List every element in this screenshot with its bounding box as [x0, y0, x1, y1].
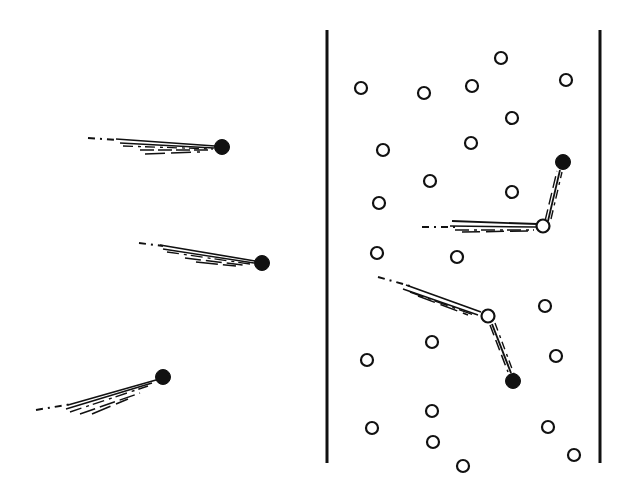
scatterer-open-circle [537, 220, 550, 233]
trajectory-endpoint-filled-dot [506, 374, 521, 389]
scatterer-open-circle [465, 137, 477, 149]
scatterer-open-circle [371, 247, 383, 259]
scatterer-open-circle [568, 449, 580, 461]
scatterer-open-circle [451, 251, 463, 263]
scatterer-open-circle [366, 422, 378, 434]
scatterer-open-circle [560, 74, 572, 86]
scatterer-open-circle [457, 460, 469, 472]
trajectory-scatter-figure [0, 0, 633, 485]
scatterer-open-circle [373, 197, 385, 209]
scatterer-open-circle [361, 354, 373, 366]
figure-root: Particle trajectory bundles in free spac… [0, 0, 633, 485]
trajectory-endpoint-filled-dot [255, 256, 270, 271]
scatterer-open-circle [377, 144, 389, 156]
trajectory-endpoint-filled-dot [215, 140, 230, 155]
scatterer-open-circle [355, 82, 367, 94]
trajectory-incoming-ray [462, 231, 528, 232]
scatterer-open-circle [426, 405, 438, 417]
scatterer-open-circle [550, 350, 562, 362]
scatterer-open-circle [427, 436, 439, 448]
scatterer-open-circle [482, 310, 495, 323]
trajectory-endpoint-filled-dot [156, 370, 171, 385]
trajectory-incoming-ray [450, 226, 536, 227]
scatterer-open-circle [424, 175, 436, 187]
scatterer-open-circle [539, 300, 551, 312]
scatterer-open-circle [506, 186, 518, 198]
scatterer-open-circle [506, 112, 518, 124]
scatterer-open-circle [466, 80, 478, 92]
scatterer-open-circle [418, 87, 430, 99]
scatterer-open-circle [542, 421, 554, 433]
trajectory-endpoint-filled-dot [556, 155, 571, 170]
scatterer-open-circle [426, 336, 438, 348]
scatterer-open-circle [495, 52, 507, 64]
